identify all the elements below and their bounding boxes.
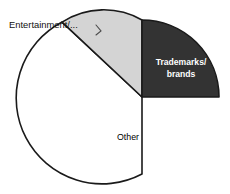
pie-label-other: Other: [117, 132, 139, 142]
pie-chart-svg: Entertainment/... Trademarks/ brands Oth…: [0, 0, 230, 194]
pie-label-trademarks-brands-line1: Trademarks/: [156, 57, 207, 67]
pie-label-trademarks-brands-line2: brands: [167, 69, 196, 79]
pie-label-entertainment: Entertainment/...: [9, 19, 78, 30]
pie-chart-container: Entertainment/... Trademarks/ brands Oth…: [0, 0, 230, 194]
